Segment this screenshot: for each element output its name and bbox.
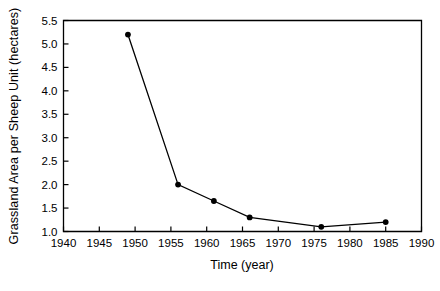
x-tick-label: 1955 [158,237,184,249]
x-tick-label: 1960 [194,237,220,249]
y-tick-label: 4.5 [42,61,58,73]
x-axis-title: Time (year) [63,258,421,272]
y-tick-label: 5.5 [42,15,58,27]
x-tick-label: 1940 [51,237,77,249]
data-point-marker [125,32,131,38]
y-tick-label: 3.5 [42,108,58,120]
x-tick-label: 1975 [301,237,327,249]
plot-frame [64,21,422,232]
data-point-marker [175,182,181,188]
x-tick-label: 1945 [87,237,113,249]
data-point-marker [318,224,324,230]
plot-area: 1940194519501955196019651970197519801985… [0,0,440,291]
x-tick-label: 1985 [373,237,399,249]
data-point-markers [125,32,389,230]
x-tick-label: 1950 [122,237,148,249]
axes-frame [64,21,422,232]
y-tick-label: 2.5 [42,155,58,167]
y-tick-label: 2.0 [42,179,58,191]
y-tick-label: 1.0 [42,226,58,238]
data-series-line [128,35,386,227]
x-tick-label: 1970 [266,237,292,249]
x-tick-label: 1965 [230,237,256,249]
x-axis-ticks: 1940194519501955196019651970197519801985… [51,227,435,249]
x-tick-label: 1990 [409,237,435,249]
x-tick-label: 1980 [337,237,363,249]
y-tick-label: 3.0 [42,132,58,144]
data-point-marker [247,215,253,221]
data-point-marker [211,198,217,204]
chart-figure: Grassland Area per Sheep Unit (hectares)… [0,0,440,291]
series-polyline [128,35,386,227]
y-tick-label: 1.5 [42,202,58,214]
y-axis-ticks: 1.01.52.02.53.03.54.04.55.05.5 [42,15,69,238]
y-tick-label: 4.0 [42,85,58,97]
data-point-marker [383,219,389,225]
y-tick-label: 5.0 [42,38,58,50]
